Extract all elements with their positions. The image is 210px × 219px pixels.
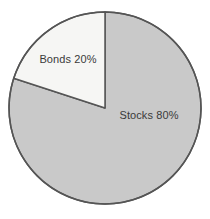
pie-chart-canvas: Bonds 20% Stocks 80% bbox=[0, 0, 210, 219]
pie-chart-figure: Bonds 20% Stocks 80% bbox=[0, 0, 210, 219]
pie-label-bonds: Bonds 20% bbox=[39, 53, 96, 65]
pie-label-stocks: Stocks 80% bbox=[119, 109, 178, 121]
